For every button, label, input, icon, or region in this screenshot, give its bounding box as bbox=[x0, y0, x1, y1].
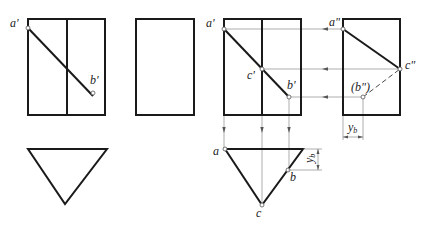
solution-side-view: a" c" (b") yb bbox=[329, 15, 416, 139]
arrow-a bbox=[322, 27, 328, 30]
label-b-double: (b") bbox=[351, 80, 370, 94]
solution-front-view: a' c' b' bbox=[206, 16, 301, 115]
solution-label-a-prime: a' bbox=[206, 16, 215, 30]
point-b-prime bbox=[91, 91, 95, 95]
dim-arrow-left bbox=[343, 136, 348, 139]
solution-point-c-prime bbox=[260, 67, 264, 71]
label-b-prime: b' bbox=[90, 73, 99, 87]
label-a-prime: a' bbox=[10, 16, 19, 30]
point-a-double bbox=[341, 27, 345, 31]
label-a: a bbox=[213, 144, 219, 158]
top-view-triangle bbox=[28, 149, 107, 204]
given-front-view: a' b' bbox=[10, 16, 105, 115]
solution-label-c-prime: c' bbox=[247, 68, 255, 82]
solution-point-a-prime bbox=[222, 27, 226, 31]
point-a-prime bbox=[26, 26, 30, 30]
label-b: b bbox=[290, 170, 296, 184]
arrow-b bbox=[322, 95, 328, 98]
line-a-double-c-double bbox=[343, 29, 400, 69]
solution-top-view: a b c yb bbox=[213, 144, 322, 220]
side-view-outline bbox=[136, 19, 194, 115]
dim-arrow-top bbox=[317, 149, 320, 154]
point-a bbox=[223, 147, 227, 151]
label-a-double: a" bbox=[329, 15, 341, 29]
label-y-b-top: yb bbox=[302, 154, 317, 164]
solution-point-b-prime bbox=[287, 95, 291, 99]
label-y-b-side: yb bbox=[347, 120, 357, 135]
point-c-double bbox=[398, 67, 402, 71]
arrow-c bbox=[322, 67, 328, 70]
line-a-prime-b-prime bbox=[28, 28, 93, 96]
given-side-view bbox=[136, 19, 194, 115]
arrow-down-a bbox=[222, 127, 225, 133]
solution-line-a-prime-b-prime bbox=[224, 29, 289, 97]
given-top-view bbox=[28, 149, 107, 204]
point-b-double bbox=[361, 95, 365, 99]
solution-side-outline bbox=[343, 19, 400, 115]
dim-arrow-right bbox=[358, 136, 363, 139]
arrow-down-b bbox=[287, 127, 290, 133]
dim-arrow-bottom bbox=[317, 165, 320, 170]
label-c-double: c" bbox=[405, 58, 416, 72]
arrow-down-c bbox=[260, 127, 263, 133]
solution-label-b-prime: b' bbox=[287, 78, 296, 92]
label-c: c bbox=[256, 206, 262, 220]
projection-diagram: a' b' a' c' b' bbox=[0, 0, 426, 226]
